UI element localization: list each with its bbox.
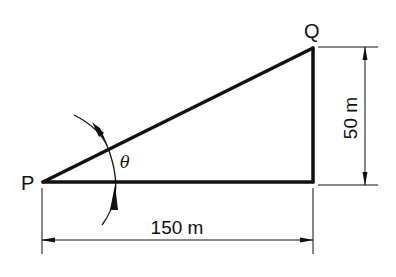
triangle xyxy=(43,48,313,182)
triangle-diagram: P Q θ 150 m 50 m xyxy=(0,0,396,277)
point-q-label: Q xyxy=(304,20,320,42)
hypotenuse-pq xyxy=(43,48,313,182)
arc-arrow-bottom-icon xyxy=(110,185,118,210)
angle-theta-label: θ xyxy=(120,153,130,172)
horizontal-dimension-label: 150 m xyxy=(151,217,204,238)
point-p-label: P xyxy=(21,172,34,194)
vertical-dimension-label: 50 m xyxy=(340,97,361,139)
angle-arc xyxy=(74,115,118,225)
